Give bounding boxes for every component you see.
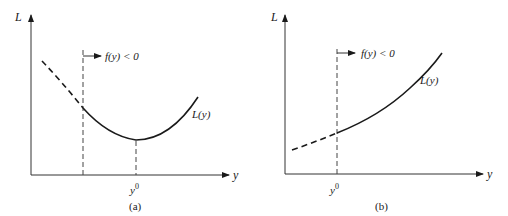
minimum-label-b: y0 xyxy=(329,182,339,196)
x-axis-label-a: y xyxy=(232,168,239,182)
objective-curve-a xyxy=(83,97,198,140)
y-axis-label-a: L xyxy=(14,10,22,24)
curve-label-a: L(y) xyxy=(191,108,211,121)
curve-label-b: L(y) xyxy=(419,74,439,87)
x-axis-label-b: y xyxy=(486,167,493,181)
infeasible-curve-a xyxy=(42,61,83,108)
caption-a: (a) xyxy=(129,200,142,213)
panel-b: L y f(y) < 0 L(y) y0 (b) xyxy=(270,10,493,213)
constraint-label-a: f(y) < 0 xyxy=(105,50,139,63)
constraint-label-b: f(y) < 0 xyxy=(361,47,395,60)
objective-curve-b xyxy=(337,53,442,133)
minimum-label-a: y0 xyxy=(129,182,139,196)
caption-b: (b) xyxy=(375,200,388,213)
figure-canvas: L y f(y) < 0 L(y) y0 (a) L y f(y) < 0 L(… xyxy=(0,0,508,216)
infeasible-curve-b xyxy=(292,133,337,150)
panel-a: L y f(y) < 0 L(y) y0 (a) xyxy=(14,10,239,213)
y-axis-label-b: L xyxy=(270,10,278,24)
